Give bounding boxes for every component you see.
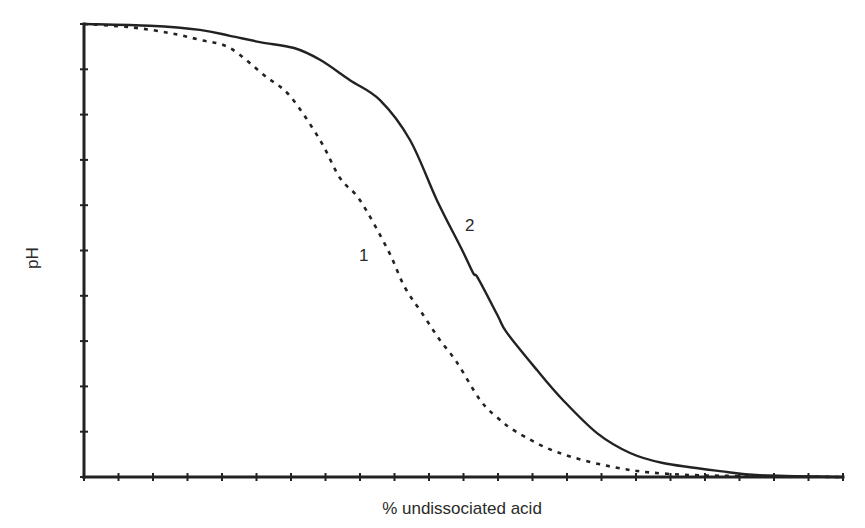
curve-2-label: 2 [465, 216, 474, 236]
axis-ticks [80, 24, 843, 481]
y-axis-label: pH [23, 238, 43, 278]
curve-1-label: 1 [359, 246, 368, 266]
chart-plot-area [0, 0, 865, 528]
curve-2-solid [84, 24, 843, 477]
x-axis-label: % undissociated acid [362, 499, 562, 519]
